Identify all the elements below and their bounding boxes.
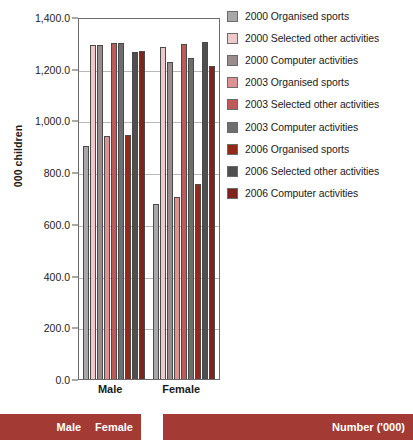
- y-tick-label: 0.0: [8, 374, 70, 386]
- bar: [104, 136, 110, 379]
- bar: [125, 135, 131, 379]
- legend-label: 2006 Selected other activities: [245, 166, 379, 177]
- chart-legend: 2000 Organised sports2000 Selected other…: [227, 5, 413, 205]
- legend-item: 2000 Organised sports: [227, 5, 413, 27]
- y-tick-mark: [72, 18, 78, 19]
- y-axis-ticks: 1,400.01,200.01,000.0800.0600.0400.0200.…: [0, 0, 70, 380]
- y-tick-label: 1,400.0: [8, 12, 70, 24]
- y-tick-mark: [72, 121, 78, 122]
- x-axis-label-male: Male: [98, 383, 122, 395]
- legend-item: 2006 Computer activities: [227, 183, 413, 205]
- y-tick-label: 400.0: [8, 271, 70, 283]
- legend-item: 2003 Organised sports: [227, 72, 413, 94]
- bar: [153, 204, 159, 379]
- banner-right: Number ('000): [163, 414, 413, 440]
- bar: [167, 62, 173, 379]
- legend-label: 2003 Organised sports: [245, 77, 349, 88]
- bar: [111, 43, 117, 379]
- bar: [160, 47, 166, 379]
- legend-label: 2003 Computer activities: [245, 122, 358, 133]
- y-tick-mark: [72, 69, 78, 70]
- bar: [118, 43, 124, 379]
- y-tick-mark: [72, 276, 78, 277]
- legend-swatch-icon: [227, 55, 238, 66]
- bar: [97, 45, 103, 379]
- legend-label: 2000 Computer activities: [245, 55, 358, 66]
- legend-item: 2000 Selected other activities: [227, 27, 413, 49]
- legend-swatch-icon: [227, 99, 238, 110]
- y-tick-mark: [72, 224, 78, 225]
- bar-groups: [79, 19, 219, 379]
- legend-swatch-icon: [227, 188, 238, 199]
- legend-item: 2000 Computer activities: [227, 49, 413, 71]
- legend-label: 2006 Computer activities: [245, 188, 358, 199]
- bar: [188, 58, 194, 379]
- legend-label: 2006 Organised sports: [245, 144, 349, 155]
- y-tick-mark: [72, 328, 78, 329]
- banner-left-item-male: Male: [57, 421, 81, 433]
- x-axis-labels: MaleFemale: [78, 383, 220, 395]
- banner-left: Male Female: [0, 414, 141, 440]
- legend-label: 2000 Selected other activities: [245, 33, 379, 44]
- banner-left-item-female: Female: [95, 421, 133, 433]
- bar: [202, 42, 208, 379]
- bar: [132, 52, 138, 379]
- legend-swatch-icon: [227, 11, 238, 22]
- legend-item: 2003 Computer activities: [227, 116, 413, 138]
- y-tick-label: 200.0: [8, 322, 70, 334]
- legend-swatch-icon: [227, 144, 238, 155]
- bar: [209, 66, 215, 379]
- legend-label: 2000 Organised sports: [245, 11, 349, 22]
- bar: [83, 146, 89, 379]
- bar-group-male: [83, 19, 145, 379]
- bar: [181, 44, 187, 379]
- legend-label: 2003 Selected other activities: [245, 99, 379, 110]
- y-tick-mark: [72, 173, 78, 174]
- y-tick-label: 600.0: [8, 219, 70, 231]
- y-tick-label: 1,200.0: [8, 64, 70, 76]
- bar: [195, 184, 201, 379]
- bar-group-female: [153, 19, 215, 379]
- y-tick-label: 1,000.0: [8, 115, 70, 127]
- legend-swatch-icon: [227, 122, 238, 133]
- bar-chart: 000 children 1,400.01,200.01,000.0800.06…: [0, 0, 413, 440]
- legend-item: 2003 Selected other activities: [227, 94, 413, 116]
- y-tick-label: 800.0: [8, 167, 70, 179]
- bar: [174, 197, 180, 379]
- legend-item: 2006 Selected other activities: [227, 160, 413, 182]
- legend-swatch-icon: [227, 33, 238, 44]
- legend-item: 2006 Organised sports: [227, 138, 413, 160]
- y-tick-mark: [72, 380, 78, 381]
- banner-right-label: Number ('000): [332, 421, 405, 433]
- plot-area: [78, 18, 220, 380]
- legend-swatch-icon: [227, 166, 238, 177]
- bar: [139, 51, 145, 379]
- bar: [90, 45, 96, 379]
- legend-swatch-icon: [227, 77, 238, 88]
- x-axis-label-female: Female: [162, 383, 200, 395]
